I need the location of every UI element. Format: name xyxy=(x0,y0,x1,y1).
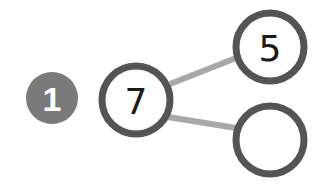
part-circle-top: 5 xyxy=(236,13,304,81)
part-value-top: 5 xyxy=(259,28,282,69)
whole-value: 7 xyxy=(125,81,148,122)
whole-circle: 7 xyxy=(102,66,170,134)
connector-line-bottom xyxy=(168,117,236,128)
problem-number-badge: 1 xyxy=(26,72,78,124)
problem-number: 1 xyxy=(43,80,62,118)
part-circle-bottom[interactable] xyxy=(236,106,304,174)
connector-line-top xyxy=(170,58,236,84)
number-bond-diagram: 1 7 5 xyxy=(0,0,323,184)
